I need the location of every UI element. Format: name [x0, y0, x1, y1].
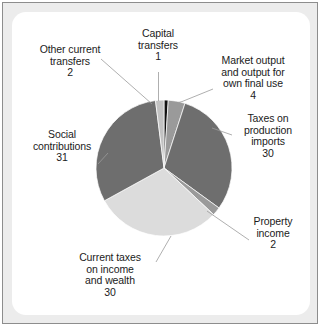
- label-property-income: Property income 2: [245, 216, 301, 251]
- label-capital-transfers: Capital transfers 1: [118, 28, 198, 63]
- leader-line-current-taxes: [156, 236, 171, 262]
- label-current-taxes: Current taxes on income and wealth 30: [66, 252, 154, 298]
- label-social-contributions: Social contributions 31: [19, 129, 105, 164]
- label-other-current-transfers: Other current transfers 2: [25, 44, 115, 79]
- label-taxes-production: Taxes on production imports 30: [237, 113, 299, 159]
- pie-chart-area: Capital transfers 1 Other current transf…: [0, 0, 322, 328]
- pie-slices-group: [96, 100, 232, 236]
- figure-container: Capital transfers 1 Other current transf…: [0, 0, 322, 328]
- leader-line-market-output: [176, 89, 213, 104]
- label-market-output: Market output and output for own final u…: [209, 55, 297, 101]
- leader-line-property-income: [207, 211, 249, 240]
